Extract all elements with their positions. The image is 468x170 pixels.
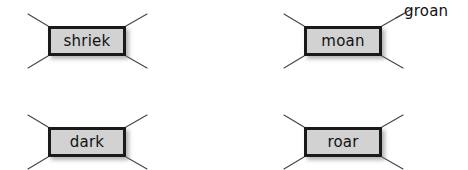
whisker-roar-bottom-left [284,157,304,169]
whisker-dark-top-right [126,115,147,127]
whisker-shriek-top-left [28,14,48,26]
whisker-shriek-top-right [126,14,147,26]
whisker-shriek-bottom-left [28,56,48,68]
whisker-moan-bottom-left [284,56,304,68]
whisker-roar-bottom-right [382,157,403,169]
node-label-shriek: shriek [64,34,111,49]
node-shriek[interactable]: shriek [48,26,126,56]
annotation-label-groan[interactable]: groan [404,4,448,19]
whisker-dark-top-left [28,115,48,127]
whisker-moan-bottom-right [382,56,403,68]
node-label-roar: roar [327,135,358,150]
node-dark[interactable]: dark [48,127,126,157]
node-moan[interactable]: moan [304,26,382,56]
node-label-dark: dark [70,135,104,150]
whisker-shriek-bottom-right [126,56,147,68]
node-roar[interactable]: roar [304,127,382,157]
whisker-dark-bottom-right [126,157,147,169]
whisker-dark-bottom-left [28,157,48,169]
diagram-canvas: shriek moan dark roar groan [0,0,468,170]
whisker-roar-top-right [382,115,403,127]
whisker-moan-top-left [284,14,304,26]
whisker-roar-top-left [284,115,304,127]
node-label-moan: moan [321,34,364,49]
